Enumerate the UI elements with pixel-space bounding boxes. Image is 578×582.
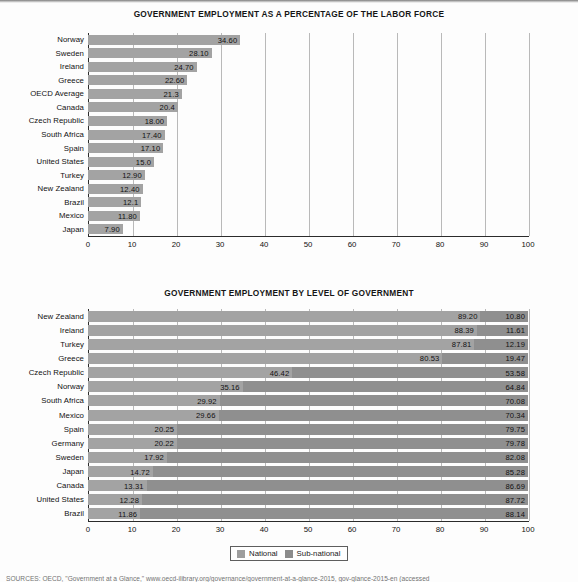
x-tick-label: 30 xyxy=(205,240,235,249)
bar-segment-sub-national xyxy=(142,494,528,505)
scan-edge-decoration xyxy=(0,0,578,3)
bar-segment-sub-national xyxy=(147,480,528,491)
x-tick-label: 100 xyxy=(513,240,543,249)
bar-value: 28.10 xyxy=(183,49,209,58)
bar-value-sub-national: 53.58 xyxy=(498,368,525,377)
bar-row: 20.4 xyxy=(88,102,528,112)
category-label: Spain xyxy=(0,143,84,154)
x-tick-label: 0 xyxy=(73,525,103,534)
bar-value: 17.40 xyxy=(136,130,162,139)
legend-label-sub-national: Sub-national xyxy=(297,549,341,558)
bar-row: 21.3 xyxy=(88,89,528,99)
category-label: Norway xyxy=(0,381,84,392)
x-tick-label: 80 xyxy=(425,240,455,249)
category-label: South Africa xyxy=(0,129,84,140)
category-label: Ireland xyxy=(0,325,84,336)
bar-row: 46.4253.58 xyxy=(88,367,528,378)
bar-row: 17.10 xyxy=(88,143,528,153)
bar-value-sub-national: 79.78 xyxy=(498,439,525,448)
bar-row: 35.1664.84 xyxy=(88,381,528,392)
x-tick-label: 80 xyxy=(425,525,455,534)
bar-value-sub-national: 70.34 xyxy=(498,411,525,420)
category-label: Mexico xyxy=(0,210,84,221)
bar-value: 22.60 xyxy=(158,76,184,85)
category-label: Sweden xyxy=(0,452,84,463)
chart1-title: GOVERNMENT EMPLOYMENT AS A PERCENTAGE OF… xyxy=(0,9,578,19)
x-tick-label: 70 xyxy=(381,240,411,249)
bar-value-sub-national: 88.14 xyxy=(498,509,525,518)
bar-value: 12.40 xyxy=(114,184,140,193)
bar-row: 88.3911.61 xyxy=(88,325,528,336)
bar-segment-sub-national xyxy=(220,395,528,406)
bar-value-national: 35.16 xyxy=(213,382,240,391)
bar-row: 13.3186.69 xyxy=(88,480,528,491)
x-tick-label: 90 xyxy=(469,525,499,534)
bar-row: 18.00 xyxy=(88,116,528,126)
bar-segment-sub-national xyxy=(153,466,528,477)
bar-segment-sub-national xyxy=(177,438,528,449)
bar-row: 28.10 xyxy=(88,48,528,58)
x-tick-label: 40 xyxy=(249,240,279,249)
bar-segment-sub-national xyxy=(243,381,528,392)
category-label: Ireland xyxy=(0,61,84,72)
bar-row: 14.7285.28 xyxy=(88,466,528,477)
category-label: Mexico xyxy=(0,410,84,421)
category-label: Japan xyxy=(0,224,84,235)
category-label: New Zealand xyxy=(0,183,84,194)
bar-value-national: 87.81 xyxy=(444,340,471,349)
bar-value-sub-national: 79.75 xyxy=(498,425,525,434)
chart-page: GOVERNMENT EMPLOYMENT AS A PERCENTAGE OF… xyxy=(0,0,578,582)
category-label: Greece xyxy=(0,75,84,86)
bar-row: 11.8688.14 xyxy=(88,508,528,519)
bar-value: 15.0 xyxy=(125,157,151,166)
bar-row: 7.90 xyxy=(88,224,528,234)
bar-row: 80.5319.47 xyxy=(88,353,528,364)
category-label: OECD Average xyxy=(0,88,84,99)
bar-value-national: 17.92 xyxy=(137,453,164,462)
category-label: Czech Republic xyxy=(0,367,84,378)
bar-value-sub-national: 64.84 xyxy=(498,382,525,391)
bar-value: 21.3 xyxy=(153,89,179,98)
bar-segment-national xyxy=(88,325,477,336)
category-label: Czech Republic xyxy=(0,115,84,126)
bar-segment-national xyxy=(88,339,474,350)
bar-value-national: 29.92 xyxy=(190,396,217,405)
bar-segment-sub-national xyxy=(219,410,528,421)
bar-value-national: 46.42 xyxy=(262,368,289,377)
legend-swatch-national-icon xyxy=(237,550,245,558)
x-tick-label: 70 xyxy=(381,525,411,534)
bar-row: 12.90 xyxy=(88,170,528,180)
bar-value-national: 89.20 xyxy=(450,312,477,321)
category-label: Brazil xyxy=(0,508,84,519)
category-label: Germany xyxy=(0,438,84,449)
x-tick-label: 100 xyxy=(513,525,543,534)
bar-value: 34.60 xyxy=(211,35,237,44)
x-tick-label: 20 xyxy=(161,240,191,249)
category-label: Turkey xyxy=(0,339,84,350)
chart2-title: GOVERNMENT EMPLOYMENT BY LEVEL OF GOVERN… xyxy=(0,288,578,298)
bar-row: 34.60 xyxy=(88,35,528,45)
gridline xyxy=(529,33,530,236)
x-tick-label: 60 xyxy=(337,525,367,534)
bar-row: 17.9282.08 xyxy=(88,452,528,463)
bar-value: 20.4 xyxy=(149,103,175,112)
bar-value: 17.10 xyxy=(134,144,160,153)
category-label: South Africa xyxy=(0,395,84,406)
bar-value-sub-national: 85.28 xyxy=(498,467,525,476)
bar-segment-national xyxy=(88,353,442,364)
source-note: SOURCES: OECD, "Government at a Glance,"… xyxy=(6,575,430,582)
x-tick-label: 50 xyxy=(293,525,323,534)
bar-value: 12.90 xyxy=(116,171,142,180)
legend-item-sub-national: Sub-national xyxy=(285,549,341,558)
bar-value-sub-national: 87.72 xyxy=(498,495,525,504)
category-label: United States xyxy=(0,494,84,505)
category-label: Spain xyxy=(0,424,84,435)
bar-value: 11.80 xyxy=(111,211,137,220)
x-tick-label: 40 xyxy=(249,525,279,534)
bar-value-sub-national: 12.19 xyxy=(498,340,525,349)
bar-value-national: 12.28 xyxy=(112,495,139,504)
category-label: Turkey xyxy=(0,170,84,181)
bar-value-national: 29.66 xyxy=(189,411,216,420)
bar-value: 24.70 xyxy=(168,62,194,71)
bar-value-national: 13.31 xyxy=(117,481,144,490)
